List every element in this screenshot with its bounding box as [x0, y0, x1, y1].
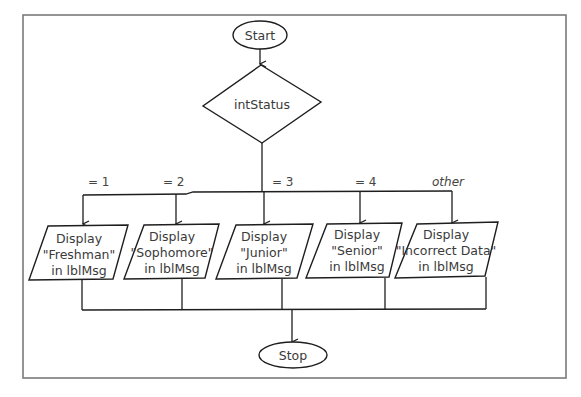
output-sophomore-line3: in lblMsg	[144, 261, 199, 276]
output-freshman-line1: Display	[56, 231, 103, 246]
output-incorrect-line1: Display	[423, 227, 470, 242]
start-terminal: Start	[233, 21, 287, 49]
output-sophomore: Display "Sophomore" in lblMsg	[124, 224, 219, 279]
output-freshman: Display "Freshman" in lblMsg	[29, 225, 128, 280]
output-freshman-line3: in lblMsg	[51, 263, 106, 278]
diagram-frame	[23, 15, 566, 378]
output-junior: Display "Junior" in lblMsg	[216, 224, 313, 279]
flowchart: Start intStatus = 1 = 2 = 3 = 4 other Di…	[0, 0, 581, 397]
branch-condition-4: = 4	[355, 175, 377, 189]
start-label: Start	[245, 28, 276, 43]
output-incorrect-line2: "Incorrect Data"	[396, 243, 497, 258]
stop-label: Stop	[279, 348, 307, 363]
output-junior-line1: Display	[241, 229, 288, 244]
output-freshman-line2: "Freshman"	[43, 247, 116, 262]
decision-diamond: intStatus	[203, 65, 321, 143]
output-senior: Display "Senior" in lblMsg	[306, 223, 402, 278]
output-incorrect-line3: in lblMsg	[418, 259, 473, 274]
output-sophomore-line2: "Sophomore"	[131, 245, 214, 260]
output-incorrect-data: Display "Incorrect Data" in lblMsg	[395, 222, 498, 278]
output-junior-line2: "Junior"	[240, 245, 287, 260]
output-senior-line1: Display	[334, 227, 381, 242]
output-sophomore-line1: Display	[149, 229, 196, 244]
merge-bus	[82, 309, 486, 310]
branch-bus	[83, 191, 452, 195]
branch-condition-other: other	[432, 175, 465, 189]
decision-label: intStatus	[234, 97, 290, 112]
output-senior-line3: in lblMsg	[329, 259, 384, 274]
output-senior-line2: "Senior"	[331, 243, 382, 258]
branch-condition-3: = 3	[272, 175, 294, 189]
branch-condition-1: = 1	[88, 175, 110, 189]
stop-terminal: Stop	[259, 342, 327, 368]
branch-condition-2: = 2	[163, 175, 185, 189]
output-junior-line3: in lblMsg	[236, 261, 291, 276]
